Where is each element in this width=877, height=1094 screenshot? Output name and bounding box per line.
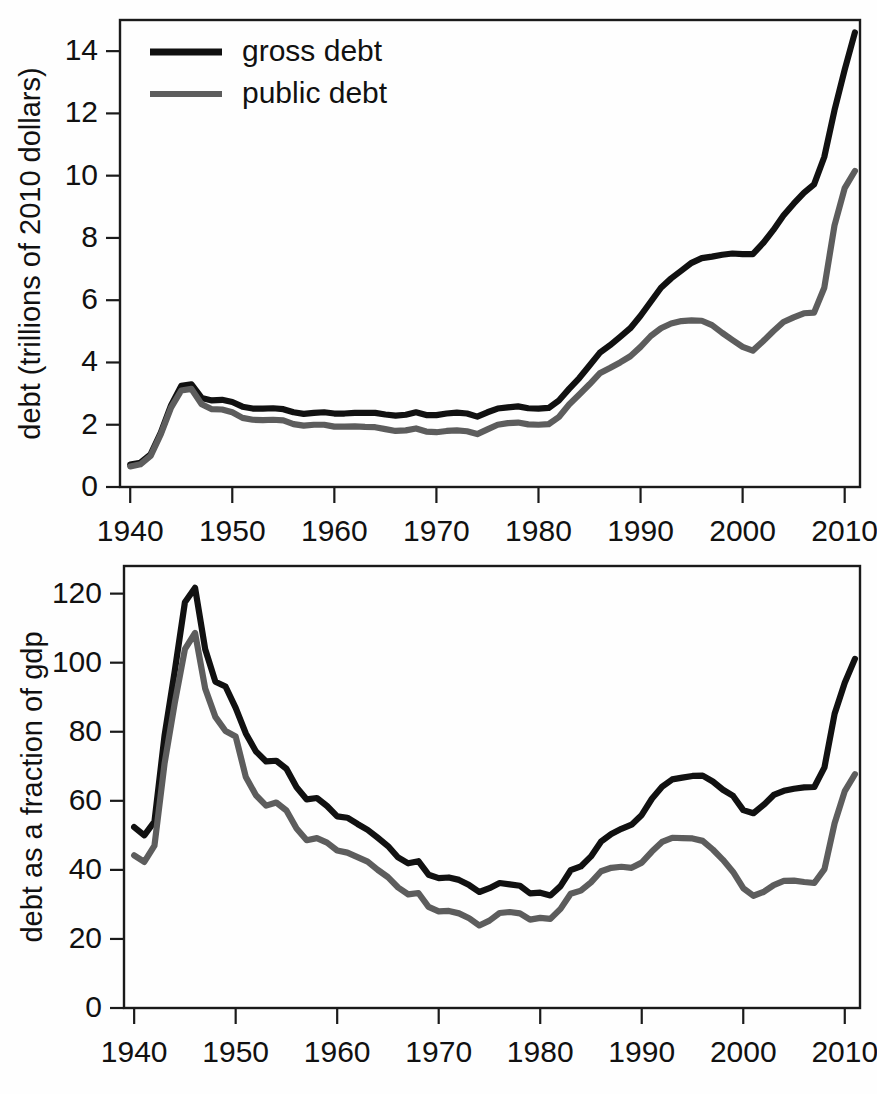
- y-axis-tick-label: 120: [52, 576, 102, 609]
- x-axis-tick-label: 2010: [811, 514, 877, 545]
- x-axis-tick-label: 1990: [608, 1035, 675, 1068]
- x-axis-tick-label: 1970: [403, 514, 470, 545]
- legend-label-public: public debt: [242, 76, 388, 109]
- public-debt-line: [130, 171, 855, 466]
- y-axis-tick-label: 20: [69, 921, 102, 954]
- y-axis-tick-label: 14: [65, 33, 98, 66]
- y-axis-tick-label: 10: [65, 158, 98, 191]
- debt-to-gdp-plot: 0204060801001201940195019601970198019902…: [0, 545, 877, 1094]
- y-axis-tick-label: 4: [81, 344, 98, 377]
- x-axis-tick-label: 1970: [405, 1035, 472, 1068]
- gross-debt-line: [134, 588, 855, 896]
- y-axis-tick-label: 40: [69, 852, 102, 885]
- x-axis-tick-label: 1980: [505, 514, 572, 545]
- legend-label-gross: gross debt: [242, 34, 383, 67]
- x-axis-tick-label: 1960: [301, 514, 368, 545]
- x-axis-tick-label: 1950: [202, 1035, 269, 1068]
- y-axis-tick-label: 0: [81, 469, 98, 502]
- x-axis-tick-label: 1980: [507, 1035, 574, 1068]
- debt-figure: 0246810121419401950196019701980199020002…: [0, 0, 877, 1094]
- y-axis-tick-label: 6: [81, 282, 98, 315]
- y-axis-tick-label: 100: [52, 645, 102, 678]
- x-axis-tick-label: 2000: [709, 514, 776, 545]
- y-axis-tick-label: 2: [81, 407, 98, 440]
- x-axis-tick-label: 1960: [304, 1035, 371, 1068]
- x-axis-tick-label: 1990: [607, 514, 674, 545]
- x-axis-tick-label: 2010: [811, 1035, 877, 1068]
- x-axis-tick-label: 1950: [199, 514, 266, 545]
- plot-frame: [124, 566, 860, 1008]
- public-debt-line: [134, 633, 855, 925]
- y-axis-tick-label: 0: [85, 990, 102, 1023]
- y-axis-tick-label: 80: [69, 714, 102, 747]
- x-axis-tick-label: 1940: [101, 1035, 168, 1068]
- x-axis-tick-label: 1940: [97, 514, 164, 545]
- x-axis-tick-label: 2000: [710, 1035, 777, 1068]
- gross-debt-line: [130, 32, 855, 464]
- y-axis-tick-label: 12: [65, 95, 98, 128]
- debt-to-gdp-panel: 0204060801001201940195019601970198019902…: [0, 545, 877, 1094]
- y-axis-tick-label: 8: [81, 220, 98, 253]
- debt-levels-plot: 0246810121419401950196019701980199020002…: [0, 0, 877, 545]
- debt-levels-panel: 0246810121419401950196019701980199020002…: [0, 0, 877, 545]
- y-axis-title: debt (trillions of 2010 dollars): [14, 67, 46, 439]
- y-axis-title: debt as a fraction of gdp: [16, 631, 48, 942]
- y-axis-tick-label: 60: [69, 783, 102, 816]
